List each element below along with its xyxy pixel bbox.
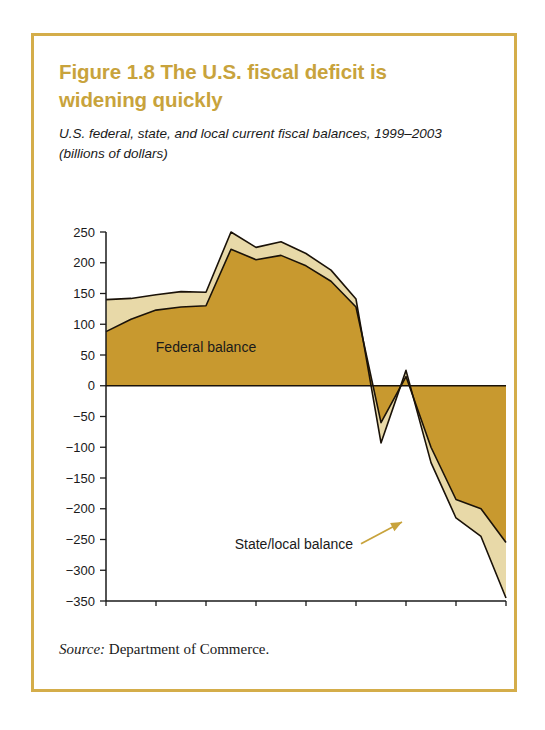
y-axis-tick-label: −350 (66, 594, 95, 607)
y-axis-tick-label: −250 (66, 532, 95, 547)
y-axis-tick-label: 200 (73, 255, 95, 270)
y-axis-tick-label: 250 (73, 225, 95, 240)
annotation-federal-balance: Federal balance (156, 339, 257, 355)
y-axis-tick-label: 150 (73, 286, 95, 301)
annotation-state-local-balance: State/local balance (235, 522, 402, 552)
source-label: Source: (59, 641, 105, 657)
y-axis-ticks: 250200150100500−50−100−150−200−250−300−3… (66, 225, 106, 607)
y-axis-tick-label: −50 (73, 409, 95, 424)
y-axis-tick-label: −100 (66, 440, 95, 455)
chart-container: 250200150100500−50−100−150−200−250−300−3… (34, 176, 514, 606)
figure-subtitle: U.S. federal, state, and local current f… (59, 124, 489, 163)
figure-frame: Figure 1.8 The U.S. fiscal deficit is wi… (31, 33, 517, 692)
y-axis-tick-label: −150 (66, 471, 95, 486)
figure-inner: Figure 1.8 The U.S. fiscal deficit is wi… (34, 36, 514, 689)
fiscal-balance-area-chart: 250200150100500−50−100−150−200−250−300−3… (34, 176, 514, 606)
y-axis-tick-label: 0 (88, 378, 95, 393)
source-note: Source: Department of Commerce. (59, 641, 269, 658)
state-local-balance-label: State/local balance (235, 536, 354, 552)
y-axis-tick-label: −300 (66, 563, 95, 578)
y-axis-tick-label: 50 (81, 348, 95, 363)
y-axis-tick-label: −200 (66, 501, 95, 516)
federal-balance-label: Federal balance (156, 339, 257, 355)
source-text: Department of Commerce. (105, 641, 269, 657)
y-axis-tick-label: 100 (73, 317, 95, 332)
figure-title: Figure 1.8 The U.S. fiscal deficit is wi… (59, 58, 479, 113)
